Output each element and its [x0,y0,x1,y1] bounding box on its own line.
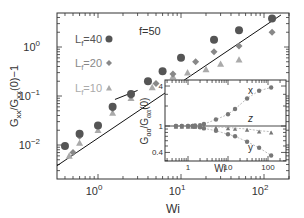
inset-marker [257,146,261,150]
triangle-marker [76,139,83,145]
inset-marker [269,153,273,157]
inset-marker [202,126,206,130]
inset-y-tick-label: 4 [159,82,164,91]
circle-marker [268,15,276,23]
inset-marker [233,134,237,138]
figure: 10010110210010−110−2WiGxx/Gxx(0)−1f=50Lf… [0,0,304,218]
circle-marker [109,103,117,111]
inset-marker [193,124,197,128]
diamond-marker [169,71,176,78]
circle-marker [106,36,113,43]
circle-marker [127,90,135,98]
diamond-marker [269,29,276,36]
diamond-marker [106,60,112,66]
inset-marker [198,125,202,129]
inset-plot: 110100410.4WiGαα/Gαα(0)xzy [139,80,286,174]
annotation-f: f=50 [139,25,161,37]
y-tick-label: 100 [23,39,40,53]
circle-marker [159,67,167,75]
inset-x-tick-label: 100 [261,163,275,172]
inset-y-tick-label: 0.4 [152,148,164,157]
inset-marker [226,132,230,136]
inset-marker [257,89,261,93]
triangle-marker [184,69,191,75]
legend-label: Lf=10 [75,82,102,97]
inset-label-y: y [248,142,253,153]
inset-x-tick-label: 1 [186,163,191,172]
inset-label-z: z [247,113,253,124]
diamond-marker [211,48,218,55]
circle-marker [94,122,102,130]
x-tick-label: 102 [252,183,269,197]
y-axis-label: Gxx/Gxx(0)−1 [8,65,23,127]
inset-marker [226,112,230,116]
inset-marker [186,124,190,128]
inset-marker [245,96,249,100]
inset-marker [180,124,184,128]
circle-marker [210,36,218,44]
diamond-marker [236,42,243,49]
inset-marker [269,85,273,89]
circle-marker [177,54,185,62]
x-tick-label: 101 [169,183,186,197]
triangle-marker [236,56,243,62]
inset-y-axis-label: Gαα/Gαα(0) [139,98,152,145]
triangle-marker [106,85,112,90]
inset-marker [214,128,218,132]
inset-marker [233,107,237,111]
inset-marker [214,117,218,121]
legend-label: Lf=40 [75,33,102,48]
circle-marker [235,26,243,34]
inset-y-tick-label: 1 [159,122,164,131]
legend-label: Lf=20 [75,57,102,72]
inset-x-axis-label: Wi [214,163,226,174]
x-axis-label: Wi [166,202,180,216]
y-tick-label: 10−2 [19,137,41,151]
inset-frame [165,80,286,161]
triangle-marker [217,60,224,66]
inset-label-x: x [248,85,253,96]
x-tick-label: 100 [86,183,103,197]
circle-marker [144,77,152,85]
circle-marker [61,142,69,150]
circle-marker [76,130,84,138]
inset-marker [174,124,178,128]
diamond-marker [192,58,199,65]
